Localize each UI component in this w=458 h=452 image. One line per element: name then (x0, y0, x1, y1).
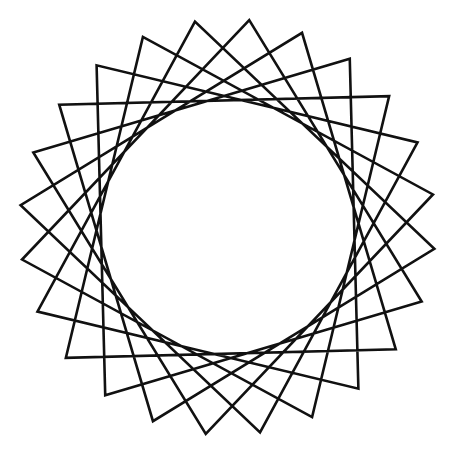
star-outline (21, 20, 435, 434)
star-polygon-drawing (0, 0, 458, 452)
star-polygon-figure (0, 0, 458, 452)
